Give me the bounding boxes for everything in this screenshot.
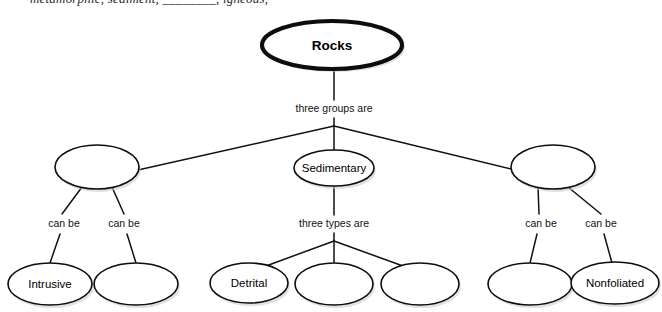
- edge-can-be-left-to-foliated: [530, 234, 537, 263]
- node-nonfoliated[interactable]: Nonfoliated: [571, 262, 661, 307]
- edge-metamorphic-to-can-be-left: [538, 187, 539, 214]
- detrital-label: Detrital: [231, 277, 267, 289]
- node-metamorphic-blank[interactable]: [511, 145, 597, 192]
- edge-label-igneous-can-be-right: can be: [108, 217, 140, 229]
- rocks-label: Rocks: [312, 38, 353, 53]
- organic-ellipse: [381, 263, 459, 305]
- sedimentary-label: Sedimentary: [302, 162, 367, 174]
- nonfoliated-label: Nonfoliated: [586, 277, 644, 289]
- igneous-ellipse: [55, 145, 139, 189]
- node-detrital[interactable]: Detrital: [210, 263, 290, 306]
- extrusive-ellipse: [94, 263, 178, 305]
- edge-can-be-right-to-nonfoliated: [604, 234, 612, 263]
- chemical-ellipse: [295, 263, 373, 305]
- edge-label-metamorphic-can-be-right: can be: [585, 217, 617, 229]
- intrusive-label: Intrusive: [28, 278, 71, 290]
- edge-label-three-types-are: three types are: [299, 217, 369, 229]
- edge-label-metamorphic-can-be-left: can be: [525, 217, 557, 229]
- node-rocks[interactable]: Rocks: [262, 21, 405, 72]
- edge-can-be-left-to-intrusive: [50, 234, 60, 263]
- foliated-ellipse: [488, 263, 572, 305]
- metamorphic-ellipse: [511, 145, 595, 189]
- edge-label-igneous-can-be-left: can be: [48, 217, 80, 229]
- node-intrusive[interactable]: Intrusive: [8, 263, 94, 308]
- node-foliated-blank[interactable]: [488, 263, 574, 308]
- edge-sedimentary-to-organic: [334, 241, 403, 266]
- edge-metamorphic-to-can-be-right: [568, 187, 601, 214]
- edge-sedimentary-to-detrital: [266, 241, 334, 266]
- rocks-concept-map: Rocks Sedimentary Intrusive: [0, 0, 662, 312]
- node-chemical-blank[interactable]: [295, 263, 375, 308]
- concept-map-page: metamorphic, sediment, ________, igneous…: [0, 0, 662, 312]
- node-sedimentary[interactable]: Sedimentary: [294, 150, 376, 189]
- edge-can-be-right-to-extrusive: [127, 234, 136, 263]
- edge-igneous-to-can-be-left: [62, 187, 82, 214]
- node-igneous-blank[interactable]: [55, 145, 141, 192]
- node-extrusive-blank[interactable]: [94, 263, 180, 308]
- edge-label-three-groups-are: three groups are: [295, 102, 372, 114]
- edge-igneous-to-can-be-right: [112, 187, 124, 214]
- node-organic-blank[interactable]: [381, 263, 461, 308]
